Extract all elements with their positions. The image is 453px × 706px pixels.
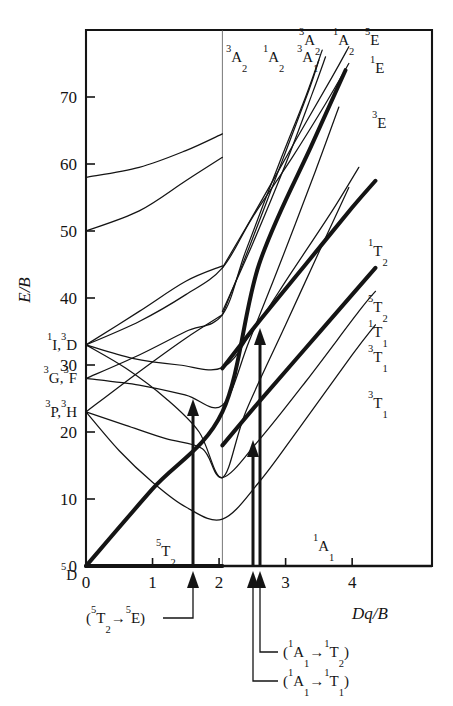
y-tick-label: 70	[60, 88, 77, 107]
y-tick-label: 40	[60, 289, 77, 308]
y-axis-title: E/B	[15, 277, 34, 304]
y-tick-label: 10	[60, 490, 77, 509]
diagram-canvas: 01234 010203040506070 1I,3D3G,3F3P,3H5D …	[0, 0, 453, 706]
x-tick-label: 2	[215, 573, 224, 592]
x-axis-title: Dq/B	[351, 604, 389, 623]
tanabe-sugano-figure: 01234 010203040506070 1I,3D3G,3F3P,3H5D …	[0, 0, 453, 706]
x-tick-label: 3	[281, 573, 290, 592]
x-tick-label: 4	[348, 573, 357, 592]
x-tick-label: 1	[148, 573, 157, 592]
x-tick-label: 0	[82, 573, 91, 592]
y-tick-label: 20	[60, 423, 77, 442]
y-tick-label: 50	[60, 222, 77, 241]
y-tick-label: 60	[60, 155, 77, 174]
